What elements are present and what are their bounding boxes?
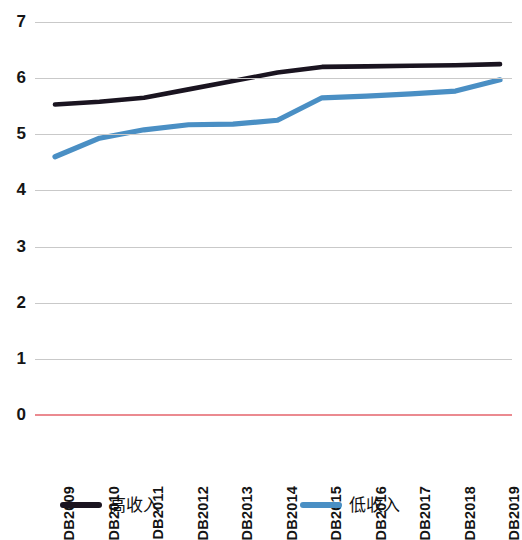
legend-swatch-icon — [300, 502, 342, 508]
y-axis-tick-label: 4 — [0, 181, 26, 198]
y-axis-tick-label: 2 — [0, 294, 26, 311]
series-line — [55, 80, 500, 157]
plot-area — [35, 22, 512, 415]
gridline — [35, 303, 512, 304]
y-axis-tick-label: 3 — [0, 238, 26, 255]
gridline — [35, 22, 512, 23]
gridline — [35, 190, 512, 191]
gridline — [35, 78, 512, 79]
y-axis-tick-label: 7 — [0, 13, 26, 30]
legend-label: 高收入 — [109, 497, 160, 514]
gridline — [35, 359, 512, 360]
x-axis: DB2009DB2010DB2011DB2012DB2013DB2014DB20… — [0, 418, 515, 490]
series-layer — [35, 22, 512, 415]
legend-item[interactable]: 高收入 — [60, 492, 160, 518]
y-axis-tick-label: 6 — [0, 69, 26, 86]
y-axis-tick-label: 5 — [0, 125, 26, 142]
axis-baseline — [35, 414, 512, 416]
y-axis-tick-label: 1 — [0, 350, 26, 367]
legend-label: 低收入 — [349, 497, 400, 514]
chart-legend: 高收入低收入 — [0, 492, 515, 522]
series-line — [55, 64, 500, 104]
gridline — [35, 134, 512, 135]
gridline — [35, 247, 512, 248]
legend-item[interactable]: 低收入 — [300, 492, 400, 518]
legend-swatch-icon — [60, 502, 102, 508]
